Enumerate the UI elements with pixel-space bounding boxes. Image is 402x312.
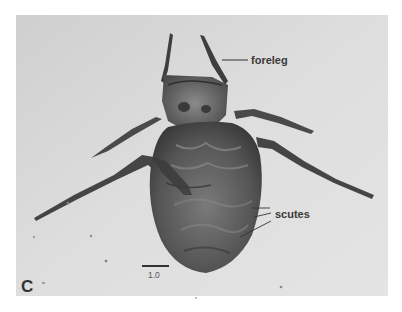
matrix-speck	[90, 235, 92, 237]
fossil-photograph: foreleg scutes 1.0 C	[16, 15, 388, 296]
scale-bar-label: 1.0	[148, 270, 160, 280]
matrix-speck	[280, 286, 283, 289]
foreleg-label: foreleg	[251, 54, 288, 66]
panel-letter: C	[21, 277, 33, 296]
matrix-speck	[33, 236, 35, 238]
matrix-speck	[67, 202, 70, 205]
matrix-speck	[105, 260, 108, 263]
scutes-label: scutes	[275, 208, 310, 220]
figure-panel: foreleg scutes 1.0 C	[0, 0, 402, 312]
page-speck	[195, 297, 197, 299]
specimen-illustration: foreleg scutes 1.0 C	[16, 15, 388, 296]
